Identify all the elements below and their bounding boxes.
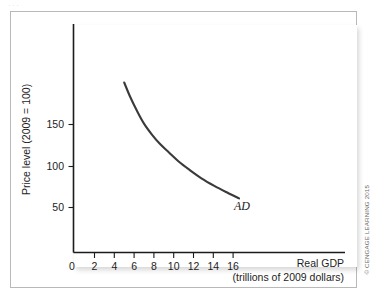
x-tick-label-8: 8 <box>151 260 157 272</box>
y-tick-label-50: 50 <box>52 201 64 213</box>
y-axis-title: Price level (2009 = 100) <box>20 84 32 195</box>
x-axis-subtitle: (trillions of 2009 dollars) <box>233 271 344 283</box>
x-tick-label-6: 6 <box>131 260 137 272</box>
x-tick-label-10: 10 <box>168 260 180 272</box>
aggregate-demand-chart: 150 100 50 0 2 4 6 8 10 12 14 16 AD Pric… <box>0 0 384 299</box>
ad-curve-label: AD <box>233 199 250 213</box>
y-tick-label-150: 150 <box>46 118 64 130</box>
y-tick-label-100: 100 <box>46 160 64 172</box>
copyright-notice: © CENGAGE LEARNING 2015 <box>363 185 370 275</box>
x-tick-label-14: 14 <box>207 260 219 272</box>
x-axis-title: Real GDP <box>297 257 344 269</box>
x-tick-label-0: 0 <box>69 260 75 272</box>
x-tick-label-4: 4 <box>111 260 117 272</box>
x-tick-label-12: 12 <box>188 260 200 272</box>
ad-curve <box>124 83 239 199</box>
x-tick-label-2: 2 <box>92 260 98 272</box>
